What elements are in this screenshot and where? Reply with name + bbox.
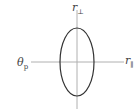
label-r-perp-sub: ⊥ [77, 8, 84, 16]
label-theta-main: θ [17, 56, 24, 69]
label-theta-sub: p [24, 63, 28, 71]
label-r-perp: r⊥ [72, 2, 84, 16]
polarization-diagram [0, 0, 140, 109]
label-r-parallel-sub: ∥ [130, 61, 133, 69]
label-theta-p: θp [17, 57, 28, 71]
label-r-parallel: r∥ [125, 55, 134, 69]
